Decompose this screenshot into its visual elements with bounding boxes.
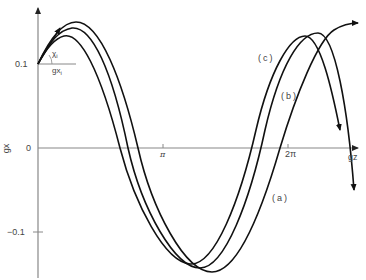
curve-label-c: (c) bbox=[258, 54, 275, 63]
diagram-canvas bbox=[0, 0, 366, 280]
y-tick-label-neg-0.1: −0.1 bbox=[7, 228, 25, 237]
curve-label-b: (b) bbox=[281, 92, 298, 101]
y-axis-label: gx bbox=[2, 144, 11, 154]
curve-label-a: (a) bbox=[272, 194, 289, 203]
initial-angle-subscript: i bbox=[56, 53, 57, 59]
x-tick-label-2pi: 2π bbox=[285, 150, 296, 159]
x-axis-label: gz bbox=[348, 153, 358, 162]
initial-value-label: gxi bbox=[52, 67, 62, 76]
initial-value-subscript: i bbox=[60, 70, 61, 76]
y-tick-label-0: 0 bbox=[26, 144, 31, 153]
x-tick-label-pi: π bbox=[160, 151, 165, 159]
curve-a bbox=[38, 22, 358, 272]
y-tick-label-0.1: 0.1 bbox=[15, 60, 28, 69]
initial-angle-label: χi bbox=[52, 50, 58, 59]
